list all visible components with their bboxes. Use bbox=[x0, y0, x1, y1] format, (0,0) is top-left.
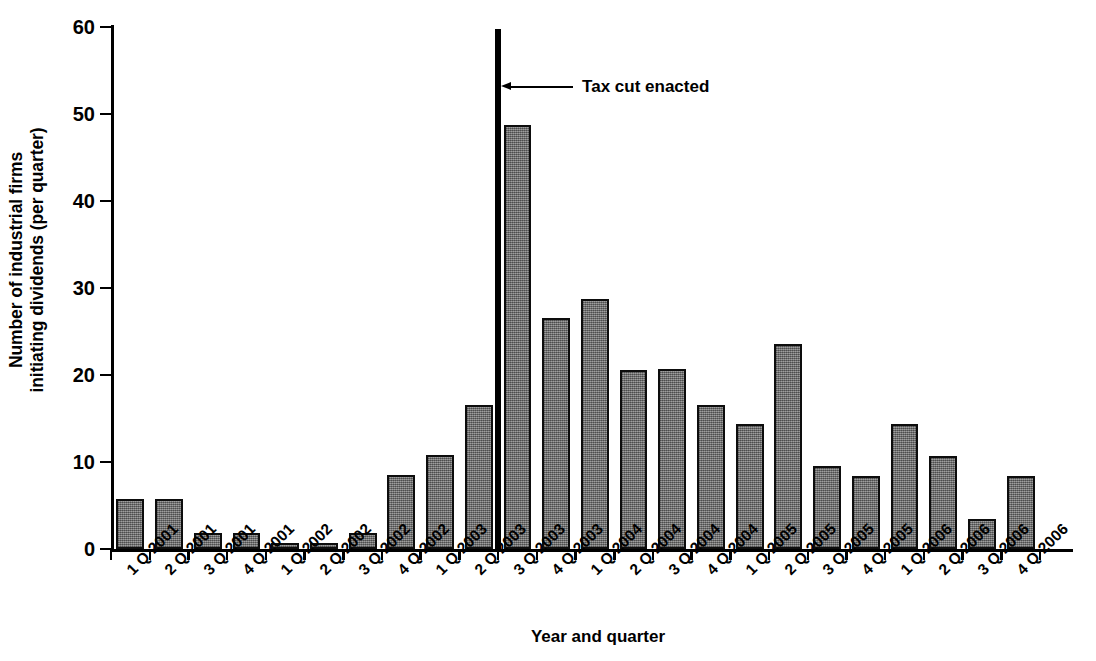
y-axis-tick-label: 50 bbox=[49, 104, 95, 124]
y-axis-title-line2: initiating dividends (per quarter) bbox=[27, 0, 48, 520]
y-axis-tick-label: 0 bbox=[49, 539, 95, 559]
y-axis-tick bbox=[100, 461, 111, 464]
y-axis-tick bbox=[100, 374, 111, 377]
bar bbox=[504, 125, 532, 549]
y-axis-tick bbox=[100, 26, 111, 29]
x-axis-tick bbox=[110, 549, 113, 560]
y-axis-tick-labels: 0102030405060 bbox=[49, 27, 95, 549]
bar bbox=[774, 344, 802, 549]
x-axis-title: Year and quarter bbox=[0, 627, 1096, 647]
tax-cut-vertical-line bbox=[495, 29, 501, 550]
y-axis-tick bbox=[100, 113, 111, 116]
tax-cut-arrow-icon bbox=[501, 80, 574, 92]
y-axis-title-line1: Number of industrial firms bbox=[6, 152, 26, 368]
y-axis-tick-label: 30 bbox=[49, 278, 95, 298]
bar bbox=[581, 299, 609, 549]
bar-series bbox=[111, 27, 1040, 549]
plot-area bbox=[111, 27, 1040, 549]
y-axis-tick-label: 40 bbox=[49, 191, 95, 211]
y-axis-tick bbox=[100, 287, 111, 290]
y-axis-tick-label: 20 bbox=[49, 365, 95, 385]
y-axis-tick-label: 60 bbox=[49, 17, 95, 37]
chart-figure: Number of industrial firms initiating di… bbox=[0, 0, 1096, 661]
y-axis-tick-label: 10 bbox=[49, 452, 95, 472]
y-axis-tick bbox=[100, 200, 111, 203]
bar bbox=[116, 499, 144, 549]
tax-cut-annotation-label: Tax cut enacted bbox=[582, 77, 709, 97]
bar bbox=[542, 318, 570, 549]
